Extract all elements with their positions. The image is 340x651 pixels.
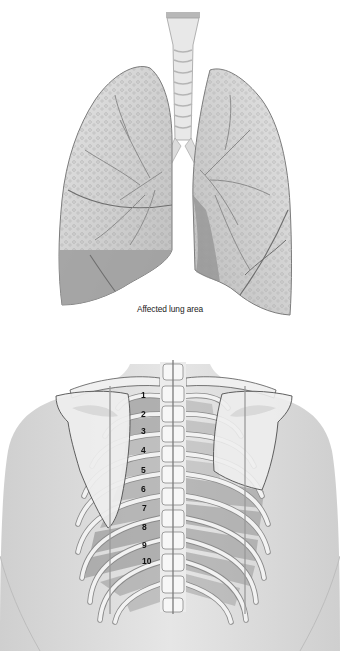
rib-label-9: 9 bbox=[142, 540, 147, 550]
rib-label-8: 8 bbox=[142, 522, 147, 532]
rib-label-7: 7 bbox=[142, 503, 147, 513]
back-ribcage-illustration: 1 2 3 4 5 6 7 8 9 10 bbox=[0, 356, 340, 651]
lungs-illustration: Affected lung area bbox=[0, 0, 340, 330]
rib-label-1: 1 bbox=[141, 390, 146, 400]
back-svg: 1 2 3 4 5 6 7 8 9 10 bbox=[0, 356, 340, 651]
affected-lung-area-caption: Affected lung area bbox=[20, 303, 319, 314]
larynx-top bbox=[166, 12, 200, 18]
rib-label-3: 3 bbox=[141, 426, 146, 436]
lungs-svg bbox=[0, 0, 340, 330]
left-lung bbox=[193, 69, 292, 315]
rib-label-4: 4 bbox=[141, 445, 146, 455]
rib-label-6: 6 bbox=[141, 484, 146, 494]
rib-label-2: 2 bbox=[141, 409, 146, 419]
rib-label-10: 10 bbox=[142, 556, 152, 566]
rib-label-5: 5 bbox=[141, 465, 146, 475]
right-lung bbox=[55, 60, 180, 320]
